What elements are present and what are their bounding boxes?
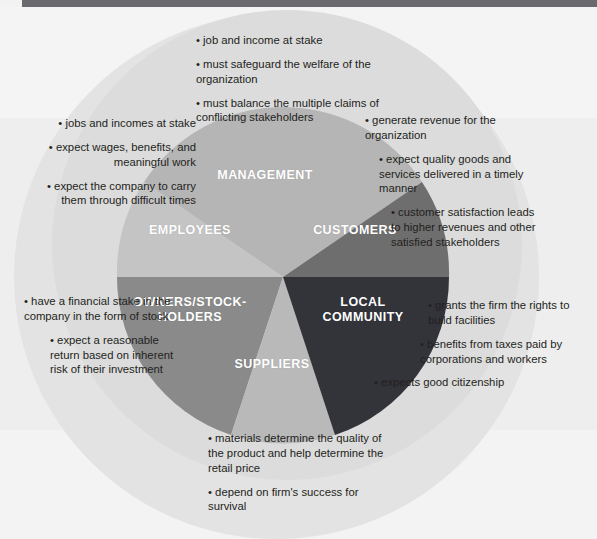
bullet-owners-2: expect a reasonable return based on inhe… <box>24 333 184 378</box>
bullet-management-1: job and income at stake <box>196 33 386 48</box>
bullet-customers-2: expect quality goods and services delive… <box>365 152 540 197</box>
wedge-label-management: MANAGEMENT <box>195 168 335 183</box>
bullet-employees-2: expect wages, benefits, and meaningful w… <box>46 140 196 170</box>
bullet-community-1: grants the firm the rights to build faci… <box>420 298 580 328</box>
text-block-customers: generate revenue for the organization ex… <box>365 113 540 250</box>
text-block-owners: have a financial stake in the company in… <box>24 294 184 377</box>
bullet-owners-1: have a financial stake in the company in… <box>24 294 184 324</box>
bullet-suppliers-2: depend on firm's success for survival <box>208 485 388 515</box>
bullet-management-2: must safeguard the welfare of the organi… <box>196 57 386 87</box>
text-block-management: job and income at stake must safeguard t… <box>196 33 386 125</box>
bullet-customers-3: customer satisfaction leads to higher re… <box>365 205 540 250</box>
bullet-community-2: benefits from taxes paid by corporations… <box>420 337 580 367</box>
top-rule <box>22 0 597 7</box>
bullet-community-3: expects good citizenship <box>374 375 580 390</box>
wedge-label-local-community: LOCAL COMMUNITY <box>308 295 418 326</box>
bullet-management-3: must balance the multiple claims of conf… <box>196 96 386 126</box>
text-block-suppliers: materials determine the quality of the p… <box>208 431 388 514</box>
bullet-employees-3: expect the company to carry them through… <box>46 179 196 209</box>
text-block-employees: jobs and incomes at stake expect wages, … <box>46 116 196 208</box>
wedge-label-suppliers: SUPPLIERS <box>212 357 332 372</box>
bullet-suppliers-1: materials determine the quality of the p… <box>208 431 388 476</box>
wedge-label-employees: EMPLOYEES <box>130 223 250 238</box>
text-block-local-community: grants the firm the rights to build faci… <box>420 298 580 390</box>
bullet-customers-1: generate revenue for the organization <box>365 113 540 143</box>
bullet-employees-1: jobs and incomes at stake <box>46 116 196 131</box>
